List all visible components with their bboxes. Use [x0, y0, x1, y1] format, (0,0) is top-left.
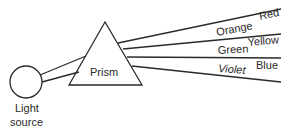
label-blue: Blue — [256, 59, 278, 71]
light-source-circle — [10, 66, 42, 98]
light-source-label-line1: Light — [15, 102, 39, 114]
label-violet: Violet — [218, 62, 247, 76]
outgoing-ray-3 — [127, 57, 281, 58]
light-source-label-line2: source — [10, 116, 43, 128]
label-yellow: Yellow — [247, 33, 279, 48]
prism-label: Prism — [90, 66, 118, 78]
prism-diagram: Prism Light source Red Orange Yellow Gre… — [0, 0, 291, 137]
label-red: Red — [258, 6, 280, 22]
label-green: Green — [217, 42, 248, 56]
incoming-ray-upper — [40, 56, 86, 75]
